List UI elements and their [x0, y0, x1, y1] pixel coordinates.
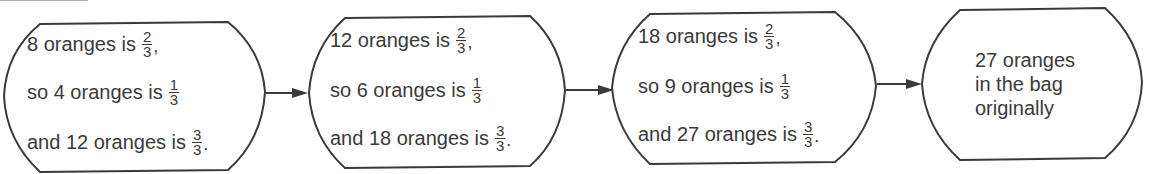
box-line: so 9 oranges is 13: [638, 72, 790, 101]
fraction: 33: [192, 128, 202, 157]
fraction-denominator: 3: [169, 93, 179, 107]
arrow-head-icon: [906, 79, 922, 89]
box-line: so 6 oranges is 13: [330, 76, 482, 105]
fraction-denominator: 3: [803, 135, 813, 149]
fraction-denominator: 3: [780, 87, 790, 101]
punctuation: ,: [467, 32, 472, 53]
line-text: 8 oranges is: [27, 33, 136, 56]
punctuation: .: [506, 130, 511, 151]
fraction: 13: [472, 76, 482, 105]
box-line: and 18 oranges is 33 .: [330, 124, 511, 153]
line-text: so 6 oranges is: [330, 79, 466, 102]
punctuation: ,: [153, 36, 158, 57]
flow-box-4-result: 27 oranges in the bag originally: [975, 48, 1075, 120]
line-text: 12 oranges is: [330, 29, 450, 52]
result-line: 27 oranges: [975, 48, 1075, 72]
fraction-denominator: 3: [142, 45, 152, 59]
fraction-denominator: 3: [764, 37, 774, 51]
fraction: 23: [142, 30, 152, 59]
fraction-denominator: 3: [456, 41, 466, 55]
line-text: so 4 oranges is: [27, 81, 163, 104]
box-line: and 12 oranges is 33 .: [27, 128, 208, 157]
line-text: so 9 oranges is: [638, 75, 774, 98]
line-text: 18 oranges is: [638, 25, 758, 48]
box-line: 18 oranges is 23 ,: [638, 22, 780, 51]
fraction: 33: [495, 124, 505, 153]
fraction-denominator: 3: [495, 139, 505, 153]
fraction: 23: [456, 26, 466, 55]
punctuation: ,: [775, 28, 780, 49]
fraction-denominator: 3: [192, 143, 202, 157]
fraction-denominator: 3: [472, 91, 482, 105]
punctuation: .: [203, 134, 208, 155]
punctuation: .: [814, 126, 819, 147]
fraction: 13: [169, 78, 179, 107]
result-line: in the bag: [975, 72, 1075, 96]
line-text: and 27 oranges is: [638, 123, 797, 146]
box-line: 8 oranges is 23 ,: [27, 30, 158, 59]
result-line: originally: [975, 96, 1075, 120]
fraction: 23: [764, 22, 774, 51]
box-line: and 27 oranges is 33 .: [638, 120, 819, 149]
fraction: 33: [803, 120, 813, 149]
box-line: 12 oranges is 23 ,: [330, 26, 472, 55]
box-line: so 4 oranges is 13: [27, 78, 179, 107]
line-text: and 18 oranges is: [330, 127, 489, 150]
line-text: and 12 oranges is: [27, 131, 186, 154]
arrow-head-icon: [292, 88, 308, 98]
fraction: 13: [780, 72, 790, 101]
